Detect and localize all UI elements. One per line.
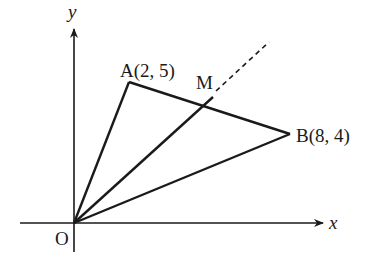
point-M-label: M bbox=[196, 72, 213, 93]
point-B-label: B(8, 4) bbox=[296, 125, 350, 147]
point-A-label: A(2, 5) bbox=[120, 60, 175, 82]
diagram-canvas: y x O A(2, 5) B(8, 4) M bbox=[0, 0, 378, 261]
segment-OB bbox=[74, 134, 290, 223]
origin-label: O bbox=[55, 228, 69, 249]
coordinate-diagram: y x O A(2, 5) B(8, 4) M bbox=[0, 0, 378, 261]
segment-OM bbox=[74, 97, 213, 223]
dashed-extension bbox=[216, 42, 269, 91]
x-axis-label: x bbox=[328, 212, 338, 233]
y-axis-label: y bbox=[66, 1, 77, 22]
segment-OA bbox=[74, 82, 129, 223]
